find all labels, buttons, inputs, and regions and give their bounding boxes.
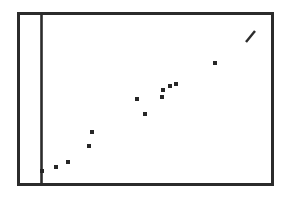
data-point: [174, 82, 178, 86]
data-point: [143, 112, 147, 116]
data-point: [87, 144, 91, 148]
scatter-plot-figure: [0, 0, 292, 202]
data-point: [54, 165, 58, 169]
plot-canvas: [0, 0, 292, 202]
data-point: [161, 88, 165, 92]
data-point: [90, 130, 94, 134]
data-point: [213, 61, 217, 65]
data-point: [66, 160, 70, 164]
data-point: [168, 84, 172, 88]
data-point: [40, 169, 44, 173]
data-point: [135, 97, 139, 101]
data-point: [160, 95, 164, 99]
